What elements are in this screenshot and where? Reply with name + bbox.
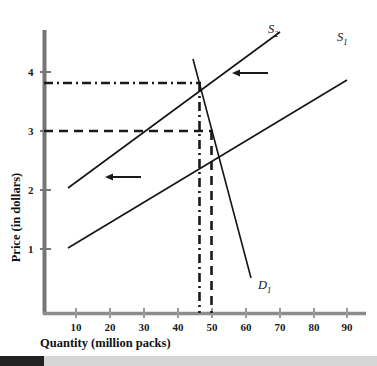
demand-curve-d1: [193, 59, 251, 278]
supply-demand-chart-figure: 4 3 2 1 10 20 30 40 50 60 70 80 90 Quant…: [0, 0, 377, 366]
y-tick-label-1: 1: [28, 243, 34, 255]
footer-bar: [0, 356, 377, 366]
curve-label-s1-subscript: 1: [343, 37, 347, 47]
footer-bar-dark-segment: [0, 356, 44, 366]
y-tick-label-2: 2: [28, 184, 34, 196]
curve-label-s2: S2: [268, 22, 279, 39]
y-axis-title: Price (in dollars): [9, 158, 24, 278]
x-tick-label-10: 10: [71, 321, 82, 333]
x-tick-label-30: 30: [139, 321, 150, 333]
x-tick-label-90: 90: [342, 321, 353, 333]
y-tick-label-4: 4: [28, 66, 34, 78]
curve-label-d1: D1: [258, 278, 271, 295]
curve-label-d1-base: D: [258, 278, 267, 292]
x-tick-label-60: 60: [241, 321, 252, 333]
curve-label-s1: S1: [337, 30, 348, 47]
x-axis-title: Quantity (million packs): [40, 336, 171, 351]
lower-shift-arrow: [105, 174, 141, 181]
curve-label-d1-subscript: 1: [267, 285, 271, 295]
footer-bar-light-segment: [44, 356, 377, 366]
x-tick-label-20: 20: [105, 321, 116, 333]
x-tick-label-80: 80: [309, 321, 320, 333]
supply-curve-s1: [68, 80, 347, 248]
chart-plot-area: [0, 0, 377, 366]
x-tick-label-70: 70: [275, 321, 286, 333]
upper-shift-arrow: [232, 70, 268, 77]
y-tick-label-3: 3: [28, 125, 34, 137]
x-tick-label-50: 50: [207, 321, 218, 333]
curve-label-s2-subscript: 2: [274, 29, 278, 39]
supply-curve-s2: [68, 32, 280, 188]
x-tick-label-40: 40: [173, 321, 184, 333]
